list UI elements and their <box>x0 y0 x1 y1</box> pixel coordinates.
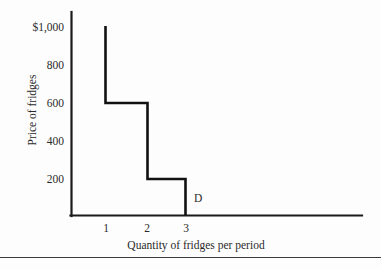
y-tick-label-1000: $1,000 <box>32 21 64 34</box>
y-tick-label-800: 800 <box>47 59 65 71</box>
x-axis-title: Quantity of fridges per period <box>127 239 265 252</box>
x-tick-label-1: 1 <box>103 222 109 234</box>
x-tick-label-3: 3 <box>183 222 189 234</box>
demand-curve-label: D <box>194 192 202 204</box>
y-axis-title: Price of fridges <box>26 74 39 145</box>
footer-divider <box>0 257 381 258</box>
chart-canvas: D $1,000 800 600 400 200 1 2 3 Quantity … <box>0 0 381 269</box>
demand-curve-path <box>106 26 186 215</box>
x-tick-label-2: 2 <box>144 222 150 234</box>
y-tick-label-600: 600 <box>47 97 65 109</box>
demand-curve-figure: D $1,000 800 600 400 200 1 2 3 Quantity … <box>0 0 381 269</box>
y-tick-label-400: 400 <box>47 135 65 147</box>
y-tick-label-200: 200 <box>47 173 65 185</box>
